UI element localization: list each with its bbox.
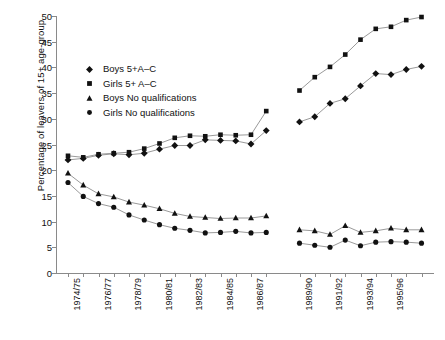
data-point-diamond <box>86 66 93 73</box>
x-tick-label: 1989/90 <box>304 278 314 311</box>
data-point-triangle <box>342 222 348 228</box>
x-tick-mark <box>144 273 145 277</box>
x-tick-mark <box>236 273 237 277</box>
data-point-square <box>312 75 317 80</box>
data-point-square <box>358 37 363 42</box>
x-tick-label: 1995/96 <box>395 278 405 311</box>
data-point-circle <box>172 226 177 231</box>
legend-item-3[interactable]: Girls No qualifications <box>82 106 196 121</box>
x-tick-mark <box>175 273 176 277</box>
series-2 <box>65 170 424 237</box>
data-point-circle <box>142 217 147 222</box>
y-tick-label: 0 <box>47 268 52 279</box>
data-point-square <box>328 65 333 70</box>
data-point-square <box>157 141 162 146</box>
x-tick-mark <box>190 273 191 277</box>
y-tick-mark <box>52 273 56 274</box>
y-tick-label: 15 <box>41 190 52 201</box>
x-tick-label: 1976/77 <box>103 278 113 311</box>
x-tick-label: 1974/75 <box>72 278 82 311</box>
data-point-circle <box>187 228 192 233</box>
x-tick-mark <box>251 273 252 277</box>
data-point-circle <box>96 201 101 206</box>
x-tick-label: 1982/83 <box>194 278 204 311</box>
data-point-circle <box>388 239 393 244</box>
data-point-triangle <box>65 170 71 176</box>
y-tick-label: 35 <box>41 88 52 99</box>
data-point-diamond <box>171 142 178 149</box>
x-tick-label: 1986/87 <box>255 278 265 311</box>
data-point-diamond <box>156 146 163 153</box>
data-point-square <box>87 81 92 86</box>
x-tick-mark <box>205 273 206 277</box>
data-point-circle <box>312 243 317 248</box>
legend-marker <box>82 91 96 105</box>
data-point-square <box>373 27 378 32</box>
data-point-square <box>188 133 193 138</box>
series-line <box>300 17 422 91</box>
legend-item-1[interactable]: Girls 5+ A–C <box>82 77 196 92</box>
data-point-circle <box>218 230 223 235</box>
data-point-square <box>249 132 254 137</box>
data-point-triangle <box>80 182 86 188</box>
y-tick-label: 50 <box>41 11 52 22</box>
y-tick-label: 45 <box>41 36 52 47</box>
data-point-diamond <box>217 137 224 144</box>
data-point-circle <box>248 230 253 235</box>
legend-label: Boys No qualifications <box>103 91 196 106</box>
data-point-circle <box>111 205 116 210</box>
data-point-diamond <box>418 63 425 70</box>
data-point-triangle <box>297 227 303 233</box>
circle-marker-icon <box>84 107 95 118</box>
data-point-triangle <box>388 225 394 231</box>
x-tick-mark <box>345 273 346 277</box>
data-point-diamond <box>187 142 194 149</box>
series-3 <box>65 180 424 250</box>
x-tick-mark <box>221 273 222 277</box>
legend-item-2[interactable]: Boys No qualifications <box>82 91 196 106</box>
y-tick-label: 10 <box>41 216 52 227</box>
legend-item-0[interactable]: Boys 5+A–C <box>82 62 196 77</box>
plot-area: 05101520253035404550 1974/751976/771978/… <box>56 16 434 273</box>
data-point-triangle <box>263 213 269 219</box>
x-tick-mark <box>160 273 161 277</box>
data-point-circle <box>419 241 424 246</box>
data-point-circle <box>81 194 86 199</box>
data-point-square <box>404 18 409 23</box>
x-tick-label: 1980/81 <box>164 278 174 311</box>
x-tick-mark <box>266 273 267 277</box>
data-point-square <box>142 146 147 151</box>
diamond-marker-icon <box>84 64 95 75</box>
data-point-square <box>81 155 86 160</box>
data-point-triangle <box>96 191 102 197</box>
data-point-square <box>218 132 223 137</box>
legend-label: Girls No qualifications <box>103 106 195 121</box>
triangle-marker-icon <box>84 93 95 104</box>
y-tick-label: 20 <box>41 165 52 176</box>
data-point-circle <box>233 229 238 234</box>
y-tick-label: 5 <box>47 242 52 253</box>
data-point-circle <box>373 240 378 245</box>
chart-legend: Boys 5+A–CGirls 5+ A–CBoys No qualificat… <box>82 62 196 120</box>
x-tick-label: 1991/92 <box>334 278 344 311</box>
data-point-circle <box>87 110 92 115</box>
data-point-diamond <box>403 66 410 73</box>
x-tick-label: 1978/79 <box>133 278 143 311</box>
data-point-circle <box>203 230 208 235</box>
data-point-circle <box>126 212 131 217</box>
data-point-circle <box>297 241 302 246</box>
x-tick-mark <box>376 273 377 277</box>
x-tick-mark <box>422 273 423 277</box>
data-point-square <box>389 24 394 29</box>
data-point-circle <box>327 245 332 250</box>
data-point-circle <box>65 180 70 185</box>
x-tick-mark <box>361 273 362 277</box>
data-point-square <box>66 154 71 159</box>
data-point-square <box>343 52 348 57</box>
x-tick-mark <box>330 273 331 277</box>
legend-marker <box>82 77 96 91</box>
series-layer <box>56 16 434 273</box>
data-point-square <box>127 150 132 155</box>
data-point-diamond <box>232 137 239 144</box>
data-point-square <box>96 152 101 157</box>
